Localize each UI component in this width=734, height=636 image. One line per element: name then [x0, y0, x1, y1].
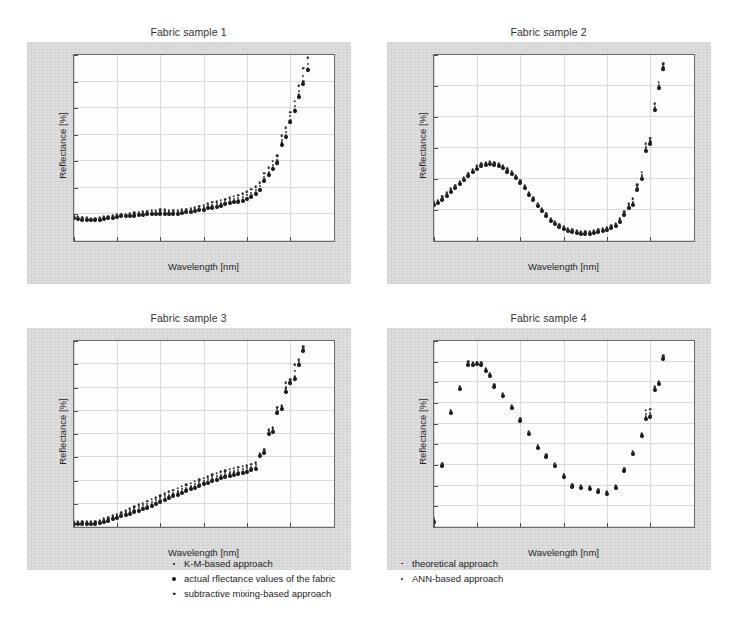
legend-item: theoretical approach: [396, 556, 503, 571]
gridline-vertical: [247, 341, 248, 527]
y-axis-tick-mark: [434, 424, 438, 425]
legend-label: ANN-based approach: [412, 573, 503, 584]
data-point: [285, 381, 288, 384]
gridline-vertical: [434, 341, 435, 527]
legend-label: subtractive mixing-based approach: [184, 588, 331, 599]
x-axis-tick-mark: [477, 237, 478, 241]
y-axis-tick-mark: [434, 486, 438, 487]
y-axis-tick-mark: [434, 465, 438, 466]
reflectance-spectra-figure: Fabric sample 1 Reflectance [%] 81012141…: [0, 0, 734, 636]
data-point: [645, 409, 648, 412]
gridline-vertical: [290, 55, 291, 241]
data-point: [267, 175, 270, 178]
data-point: [285, 391, 288, 394]
y-axis-tick-mark: [74, 108, 78, 109]
legend-item: K-M-based approach: [168, 556, 336, 571]
data-point: [267, 167, 270, 170]
data-point: [307, 63, 309, 65]
y-axis-tick-mark: [74, 241, 78, 242]
legend-column-right: theoretical approachANN-based approach: [396, 556, 503, 586]
x-axis-tick-mark: [564, 237, 565, 241]
chart-panel-fabric-sample-3: Fabric sample 3 Reflectance [%] 30354045…: [18, 310, 359, 578]
data-point: [649, 143, 652, 146]
y-axis-label-wrap: Reflectance [%]: [395, 54, 413, 242]
data-point: [293, 363, 296, 366]
y-axis-tick-mark: [434, 444, 438, 445]
data-point: [289, 115, 291, 117]
data-point: [293, 378, 296, 381]
data-point: [632, 204, 635, 207]
y-axis-tick-mark: [434, 382, 438, 383]
y-axis-tick-mark: [434, 403, 438, 404]
x-axis-tick-mark: [650, 523, 651, 527]
x-axis-tick-mark: [160, 237, 161, 241]
plot-area: 15202530354045400450500550600650700: [433, 54, 695, 242]
gridline-vertical: [520, 341, 521, 527]
data-point: [645, 417, 648, 420]
panel-title: Fabric sample 3: [18, 310, 359, 326]
y-axis-tick-mark: [74, 364, 78, 365]
data-point: [306, 70, 309, 73]
gridline-vertical: [607, 55, 608, 241]
y-axis-label: Reflectance [%]: [416, 71, 427, 221]
legend-dot-icon: [173, 563, 175, 565]
data-point: [263, 180, 266, 183]
data-point: [272, 160, 275, 163]
data-point: [276, 163, 279, 166]
gridline-vertical: [247, 55, 248, 241]
x-axis-tick-mark: [247, 523, 248, 527]
x-axis-tick-mark: [434, 237, 435, 241]
y-axis-tick-mark: [74, 135, 78, 136]
legend-marker-icon: [396, 573, 408, 585]
legend-item: ANN-based approach: [396, 571, 503, 586]
data-point: [276, 155, 279, 158]
data-point: [250, 188, 253, 191]
x-axis-tick-mark: [74, 237, 75, 241]
y-axis-tick-mark: [74, 457, 78, 458]
legend-label: actual rflectance values of the fabric: [184, 573, 336, 584]
legend-item: actual rflectance values of the fabric: [168, 571, 336, 586]
gridline-vertical: [694, 55, 695, 241]
x-axis-tick-mark: [650, 237, 651, 241]
y-axis-tick-mark: [74, 504, 78, 505]
axes-background: Reflectance [%] 810121416182022400450500…: [27, 42, 351, 284]
legend-label: K-M-based approach: [184, 558, 273, 569]
gridline-vertical: [694, 341, 695, 527]
legend-marker-icon: [168, 558, 180, 570]
data-point: [645, 149, 648, 152]
data-point: [285, 127, 288, 130]
panel-title: Fabric sample 2: [378, 24, 719, 40]
data-point: [280, 135, 283, 138]
y-axis-tick-mark: [74, 388, 78, 389]
gridline-vertical: [477, 55, 478, 241]
x-axis-tick-mark: [204, 523, 205, 527]
y-axis-tick-mark: [74, 434, 78, 435]
y-axis-tick-mark: [74, 341, 78, 342]
data-point: [285, 136, 288, 139]
data-point: [246, 191, 249, 194]
legend-marker-icon: [168, 588, 180, 600]
data-point: [267, 433, 270, 436]
chart-panel-fabric-sample-2: Fabric sample 2 Reflectance [%] 15202530…: [378, 24, 719, 292]
x-axis-tick-mark: [334, 237, 335, 241]
gridline-vertical: [477, 341, 478, 527]
legend-marker-icon: [396, 558, 408, 570]
gridline-vertical: [334, 341, 335, 527]
y-axis-tick-mark: [434, 55, 438, 56]
data-point: [280, 408, 283, 411]
gridline-vertical: [334, 55, 335, 241]
y-axis-tick-mark: [74, 481, 78, 482]
data-point: [289, 111, 292, 114]
chart-panel-fabric-sample-1: Fabric sample 1 Reflectance [%] 81012141…: [18, 24, 359, 292]
y-axis-tick-mark: [434, 117, 438, 118]
data-point: [298, 84, 301, 87]
data-point: [640, 177, 643, 180]
y-axis-tick-mark: [74, 527, 78, 528]
y-axis-tick-mark: [434, 506, 438, 507]
legend-item: subtractive mixing-based approach: [168, 586, 336, 601]
data-point: [298, 90, 300, 92]
y-axis-tick-mark: [74, 82, 78, 83]
x-axis-label: Wavelength [nm]: [73, 261, 335, 272]
legend-marker-icon: [168, 573, 180, 585]
x-axis-tick-mark: [204, 237, 205, 241]
